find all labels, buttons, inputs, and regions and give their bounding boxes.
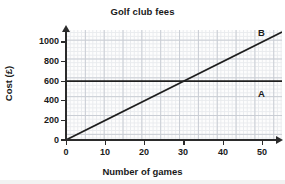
y-tick-800	[61, 61, 66, 62]
x-tick-30	[183, 140, 184, 145]
y-tick-1000	[61, 41, 66, 42]
y-tick-label-400: 400	[44, 95, 59, 105]
x-tick-20	[144, 140, 145, 145]
plot-area	[66, 30, 282, 140]
x-tick-40	[223, 140, 224, 145]
x-axis-arrow-icon	[276, 136, 283, 144]
series-label-a: A	[258, 88, 265, 99]
x-tick-0	[66, 140, 67, 145]
x-axis-title: Number of games	[0, 166, 285, 177]
x-tick-label-30: 30	[170, 147, 196, 157]
x-tick-label-20: 20	[131, 147, 157, 157]
x-tick-label-40: 40	[210, 147, 236, 157]
series-label-b: B	[258, 27, 265, 38]
y-tick-label-0: 0	[54, 135, 59, 145]
x-tick-10	[105, 140, 106, 145]
chart-title: Golf club fees	[0, 6, 285, 17]
x-axis-line	[65, 139, 278, 141]
y-tick-400	[61, 100, 66, 101]
x-tick-label-50: 50	[249, 147, 275, 157]
y-axis-line	[65, 31, 67, 141]
y-tick-label-200: 200	[44, 115, 59, 125]
y-tick-600	[61, 81, 66, 82]
data-lines	[66, 30, 282, 140]
chart-figure: Golf club fees 0 200 400 600 800 1000 0 …	[0, 0, 285, 184]
x-tick-50	[262, 140, 263, 145]
x-tick-label-0: 0	[53, 147, 79, 157]
y-tick-label-600: 600	[44, 76, 59, 86]
y-tick-200	[61, 120, 66, 121]
page-bottom-strip	[0, 180, 285, 184]
y-tick-label-1000: 1000	[39, 36, 59, 46]
y-axis-arrow-icon	[62, 25, 70, 32]
y-axis-title: Cost (£)	[3, 54, 14, 114]
series-line-b	[66, 32, 282, 140]
x-tick-label-10: 10	[92, 147, 118, 157]
y-tick-label-800: 800	[44, 56, 59, 66]
